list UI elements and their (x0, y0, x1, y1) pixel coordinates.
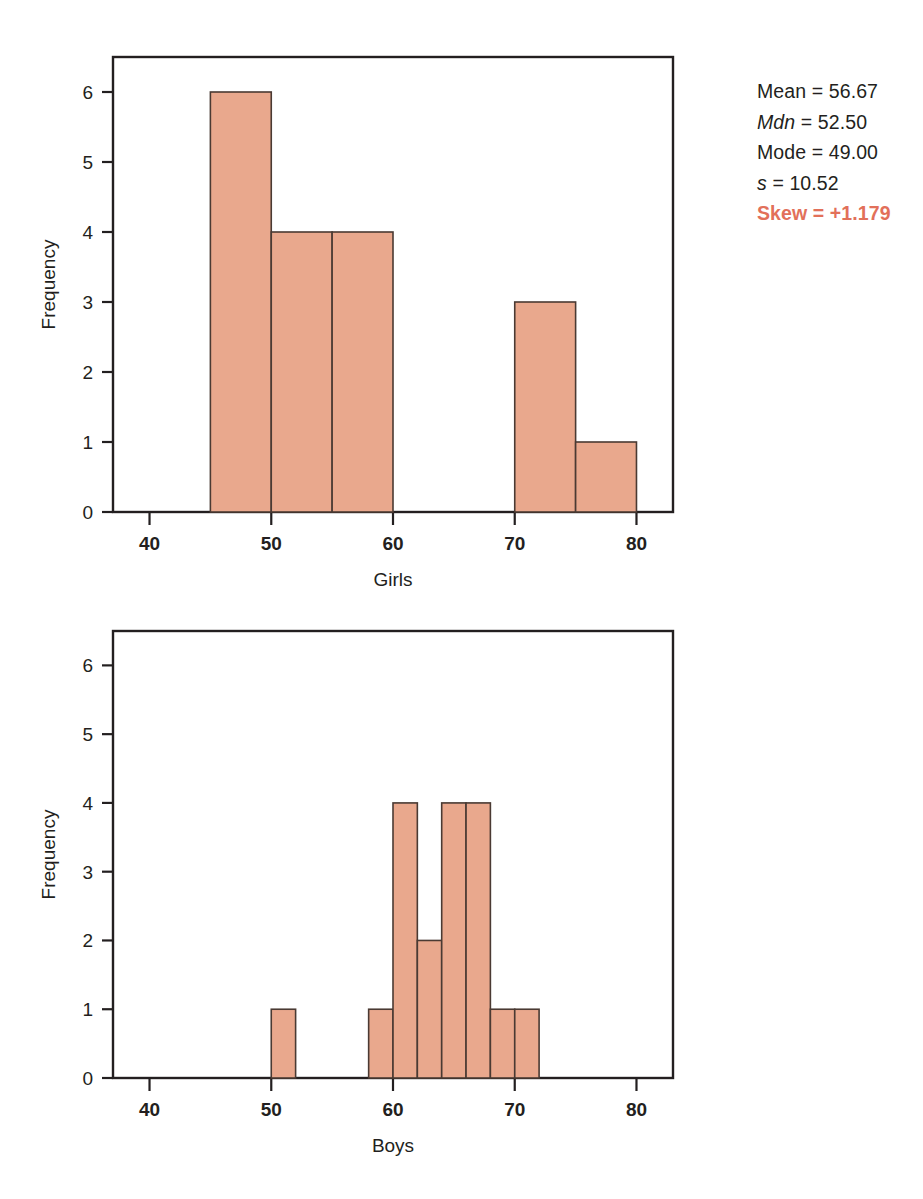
histogram-girls: 01234564050607080GirlsFrequency (0, 0, 760, 600)
histogram-bar (515, 302, 576, 512)
histogram-bar (515, 1009, 539, 1078)
x-tick-label: 70 (504, 1099, 525, 1120)
stat-mode-equals: = (812, 141, 824, 163)
x-tick-label: 40 (139, 1099, 160, 1120)
histogram-bar (271, 232, 332, 512)
histogram-bar (466, 803, 490, 1078)
y-axis-label: Frequency (38, 809, 59, 899)
stat-mode-value: 49.00 (829, 141, 878, 163)
stat-mean: Mean = 56.67 (757, 76, 891, 107)
stat-s-label: s (757, 172, 767, 194)
panel-boys: 01234564050607080BoysFrequency Mean = 63… (0, 600, 923, 1199)
stat-skew-equals: = (813, 202, 825, 224)
x-axis-label: Girls (373, 569, 412, 590)
histogram-bar (369, 1009, 393, 1078)
stat-mdn: Mdn = 52.50 (757, 107, 891, 138)
x-tick-label: 70 (504, 533, 525, 554)
y-tick-label: 0 (82, 502, 93, 523)
plot-area-girls: 01234564050607080GirlsFrequency (0, 0, 760, 600)
x-tick-label: 60 (382, 533, 403, 554)
y-tick-label: 4 (82, 793, 93, 814)
histogram-figure: 01234564050607080GirlsFrequency Mean = 5… (0, 0, 923, 1199)
x-tick-label: 50 (261, 533, 282, 554)
y-tick-label: 4 (82, 222, 93, 243)
stat-mean-equals: = (812, 80, 824, 102)
x-axis-label: Boys (372, 1135, 414, 1156)
y-tick-label: 3 (82, 862, 93, 883)
y-tick-label: 3 (82, 292, 93, 313)
histogram-bar (210, 92, 271, 512)
stat-mdn-label: Mdn (757, 111, 795, 133)
x-tick-label: 80 (626, 1099, 647, 1120)
y-tick-label: 2 (82, 362, 93, 383)
y-tick-label: 0 (82, 1068, 93, 1089)
stat-s-equals: = (772, 172, 784, 194)
y-axis-label: Frequency (38, 239, 59, 329)
x-tick-label: 60 (382, 1099, 403, 1120)
stats-block-girls: Mean = 56.67 Mdn = 52.50 Mode = 49.00 s … (757, 76, 891, 229)
stat-mean-label: Mean (757, 80, 806, 102)
panel-girls: 01234564050607080GirlsFrequency Mean = 5… (0, 0, 923, 600)
histogram-bar (576, 442, 637, 512)
x-tick-label: 80 (626, 533, 647, 554)
histogram-boys: 01234564050607080BoysFrequency (0, 600, 760, 1199)
x-tick-label: 40 (139, 533, 160, 554)
stat-s-value: 10.52 (789, 172, 838, 194)
y-tick-label: 6 (82, 655, 93, 676)
histogram-bar (490, 1009, 514, 1078)
y-tick-label: 5 (82, 724, 93, 745)
histogram-bar (417, 940, 441, 1078)
stat-mode-label: Mode (757, 141, 806, 163)
histogram-bar (442, 803, 466, 1078)
y-tick-label: 1 (82, 432, 93, 453)
stat-mean-value: 56.67 (829, 80, 878, 102)
stat-skew-label: Skew (757, 202, 807, 224)
histogram-bar (271, 1009, 295, 1078)
y-tick-label: 2 (82, 930, 93, 951)
stat-s: s = 10.52 (757, 168, 891, 199)
y-tick-label: 5 (82, 152, 93, 173)
stat-mdn-equals: = (801, 111, 813, 133)
y-tick-label: 1 (82, 999, 93, 1020)
stat-skew-value: +1.179 (830, 202, 891, 224)
stat-skew: Skew = +1.179 (757, 198, 891, 229)
histogram-bar (393, 803, 417, 1078)
stat-mode: Mode = 49.00 (757, 137, 891, 168)
stat-mdn-value: 52.50 (818, 111, 867, 133)
plot-area-boys: 01234564050607080BoysFrequency (0, 600, 760, 1199)
y-tick-label: 6 (82, 82, 93, 103)
x-tick-label: 50 (261, 1099, 282, 1120)
histogram-bar (332, 232, 393, 512)
